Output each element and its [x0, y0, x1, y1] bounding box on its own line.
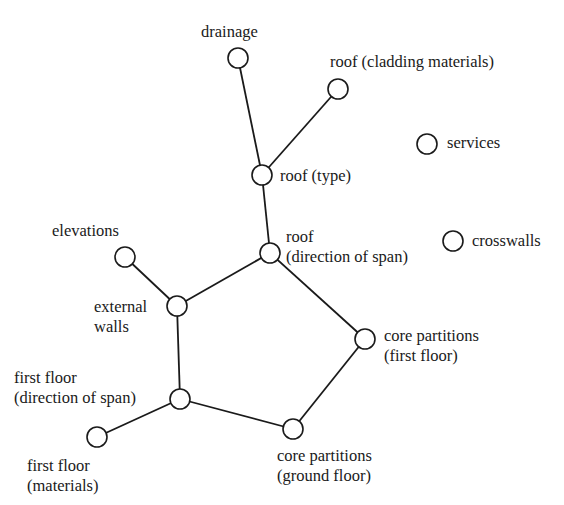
- label-first-floor-span-line1: first floor: [14, 368, 136, 388]
- node-core-ground: [283, 419, 303, 439]
- label-external-walls-line1: external: [70, 297, 164, 317]
- network-diagram: [0, 0, 564, 505]
- node-first-floor-materials: [87, 427, 107, 447]
- label-core-first-line2: (first floor): [384, 346, 479, 366]
- label-roof-span: roof (direction of span): [286, 227, 408, 267]
- label-crosswalls: crosswalls: [472, 231, 541, 251]
- node-elevations: [115, 247, 135, 267]
- node-services: [417, 134, 437, 154]
- label-core-ground-line2: (ground floor): [277, 466, 372, 486]
- label-core-ground: core partitions (ground floor): [277, 446, 372, 486]
- label-roof-type: roof (type): [280, 166, 351, 186]
- label-core-first: core partitions (first floor): [384, 326, 479, 366]
- node-crosswalls: [443, 231, 463, 251]
- label-first-floor-materials-line2: (materials): [27, 476, 98, 496]
- edge-roof_type-roof_span: [262, 175, 270, 253]
- node-first-floor-span: [170, 389, 190, 409]
- label-services: services: [447, 133, 500, 153]
- label-first-floor-span-line2: (direction of span): [14, 388, 136, 408]
- node-core-first: [355, 329, 375, 349]
- edge-roof_span-external_walls: [177, 253, 270, 306]
- label-external-walls-line2: walls: [70, 317, 164, 337]
- edge-roof_cladding-roof_type: [262, 89, 338, 175]
- edge-core_ground-core_first: [293, 339, 365, 429]
- edge-drainage-roof_type: [238, 58, 262, 175]
- label-first-floor-span: first floor (direction of span): [14, 368, 136, 408]
- label-elevations: elevations: [52, 221, 119, 241]
- label-core-ground-line1: core partitions: [277, 446, 372, 466]
- node-external-walls: [167, 296, 187, 316]
- label-core-first-line1: core partitions: [384, 326, 479, 346]
- label-first-floor-materials: first floor (materials): [27, 456, 98, 496]
- label-roof-cladding: roof (cladding materials): [330, 52, 494, 72]
- label-external-walls: external walls: [70, 297, 164, 337]
- label-first-floor-materials-line1: first floor: [27, 456, 98, 476]
- edge-external_walls-first_floor_span: [177, 306, 180, 399]
- edge-first_floor_span-core_ground: [180, 399, 293, 429]
- node-roof-type: [252, 165, 272, 185]
- node-drainage: [228, 48, 248, 68]
- node-roof-cladding: [328, 79, 348, 99]
- node-roof-span: [260, 243, 280, 263]
- label-drainage: drainage: [201, 22, 258, 42]
- label-roof-span-line1: roof: [286, 227, 408, 247]
- label-roof-span-line2: (direction of span): [286, 247, 408, 267]
